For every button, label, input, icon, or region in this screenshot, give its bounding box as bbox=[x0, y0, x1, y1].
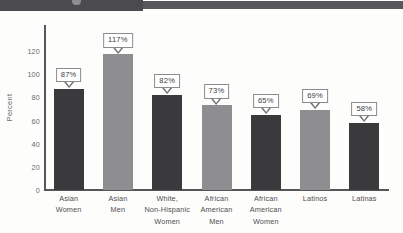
data-label-value: 82% bbox=[154, 74, 180, 88]
y-tick-label: 80 bbox=[14, 93, 40, 102]
x-axis-category-labels: AsianWomenAsianMenWhite,Non-HispanicWome… bbox=[44, 193, 389, 233]
top-header-strip bbox=[0, 0, 403, 11]
y-axis-ticks: 020406080100120 bbox=[10, 11, 40, 211]
data-label-callout: 87% bbox=[56, 68, 82, 82]
bar bbox=[300, 110, 330, 190]
data-label-callout: 73% bbox=[204, 84, 230, 98]
bar-chart: 020406080100120 Percent 87%117%82%73%65%… bbox=[0, 11, 403, 233]
data-label-value: 69% bbox=[302, 89, 328, 103]
x-category-label: Latinas bbox=[331, 193, 397, 204]
callout-pointer-inner bbox=[66, 82, 72, 86]
data-label-callout: 65% bbox=[253, 94, 279, 108]
bar bbox=[103, 54, 133, 190]
callout-pointer-inner bbox=[115, 48, 121, 52]
callout-pointer-inner bbox=[312, 103, 318, 107]
callout-pointer-inner bbox=[361, 116, 367, 120]
bar bbox=[152, 95, 182, 190]
callout-pointer-inner bbox=[164, 88, 170, 92]
x-category-label-line: Women bbox=[233, 216, 299, 227]
bar bbox=[349, 123, 379, 190]
data-label-callout: 58% bbox=[351, 102, 377, 116]
y-tick-label: 40 bbox=[14, 139, 40, 148]
callout-pointer-inner bbox=[214, 99, 220, 103]
data-label-callout: 69% bbox=[302, 89, 328, 103]
y-tick-label: 20 bbox=[14, 162, 40, 171]
data-label-value: 58% bbox=[351, 102, 377, 116]
data-label-value: 65% bbox=[253, 94, 279, 108]
callout-pointer-inner bbox=[263, 108, 269, 112]
y-tick-label: 100 bbox=[14, 70, 40, 79]
data-label-callout: 117% bbox=[103, 33, 133, 47]
y-tick-label: 120 bbox=[14, 47, 40, 56]
data-label-value: 87% bbox=[56, 68, 82, 82]
bar bbox=[202, 105, 232, 190]
data-label-value: 73% bbox=[204, 84, 230, 98]
header-strip-right-segment bbox=[143, 1, 403, 9]
bar bbox=[251, 115, 281, 190]
data-label-value: 117% bbox=[103, 33, 133, 47]
x-category-label-line: American bbox=[233, 204, 299, 215]
bar bbox=[54, 89, 84, 190]
data-label-callout: 82% bbox=[154, 74, 180, 88]
y-axis-title: Percent bbox=[5, 94, 14, 122]
x-category-label-line: Latinas bbox=[331, 193, 397, 204]
y-tick-label: 60 bbox=[14, 116, 40, 125]
